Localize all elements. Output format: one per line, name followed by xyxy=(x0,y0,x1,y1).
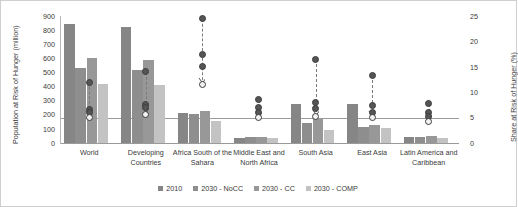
bar xyxy=(369,125,380,143)
legend-swatch-icon xyxy=(254,186,259,191)
y-tick-left: 100 xyxy=(31,125,55,134)
bar xyxy=(98,84,109,143)
data-point-marker xyxy=(86,79,93,86)
bar xyxy=(267,138,278,143)
data-point-marker xyxy=(369,72,376,79)
y-tick-left: 0 xyxy=(31,139,55,148)
x-axis-label: Latin America and Caribbean xyxy=(397,148,460,167)
data-point-marker xyxy=(425,100,432,107)
legend-item[interactable]: 2030 - COMP xyxy=(306,184,358,193)
y-tick-left: 700 xyxy=(31,40,55,49)
y-tick-left: 200 xyxy=(31,110,55,119)
bar xyxy=(256,137,267,143)
bar xyxy=(64,24,75,143)
bar-cluster xyxy=(344,16,401,143)
bar xyxy=(415,137,426,143)
bar xyxy=(358,127,369,143)
chart-legend: 20102030 - NoCC2030 - CC2030 - COMP xyxy=(0,181,516,195)
bar xyxy=(154,85,165,143)
bar xyxy=(211,121,222,143)
bar-cluster xyxy=(287,16,344,143)
bar-cluster xyxy=(231,16,288,143)
y-tick-left: 800 xyxy=(31,26,55,35)
data-point-marker xyxy=(86,114,93,121)
bar xyxy=(245,137,256,143)
legend-swatch-icon xyxy=(158,186,163,191)
legend-label: 2030 - NoCC xyxy=(201,184,243,193)
bar-cluster xyxy=(174,16,231,143)
data-point-marker xyxy=(199,63,206,70)
bar-cluster xyxy=(118,16,175,143)
data-point-marker xyxy=(199,15,206,22)
bar xyxy=(426,136,437,143)
bar xyxy=(234,138,245,143)
bar xyxy=(200,111,211,143)
bar xyxy=(87,58,98,143)
bar xyxy=(75,68,86,143)
legend-item[interactable]: 2030 - CC xyxy=(254,184,295,193)
y-tick-left: 600 xyxy=(31,54,55,63)
legend-label: 2010 xyxy=(166,184,182,193)
legend-swatch-icon xyxy=(306,186,311,191)
bar xyxy=(302,123,313,143)
legend-label: 2030 - COMP xyxy=(314,184,358,193)
y-tick-right: 15 xyxy=(470,63,494,72)
y-axis-right-title: Share at Risk of Hunger (%) xyxy=(509,52,518,142)
data-point-marker xyxy=(255,114,262,121)
y-tick-right: 20 xyxy=(470,37,494,46)
bar xyxy=(381,128,392,143)
y-tick-right: 0 xyxy=(470,139,494,148)
plot-area xyxy=(61,16,457,143)
bar xyxy=(189,114,200,143)
y-tick-left: 500 xyxy=(31,68,55,77)
bar xyxy=(313,119,324,143)
bar xyxy=(178,113,189,143)
bar-cluster xyxy=(61,16,118,143)
y-tick-left: 400 xyxy=(31,82,55,91)
bar xyxy=(121,27,132,143)
bar xyxy=(404,137,415,143)
y-tick-left: 900 xyxy=(31,12,55,21)
legend-swatch-icon xyxy=(193,186,198,191)
legend-item[interactable]: 2010 xyxy=(158,184,182,193)
x-axis-label: World xyxy=(58,148,121,158)
y-axis-left-title: Population at Risk of Hunger (million) xyxy=(11,25,20,144)
y-tick-right: 5 xyxy=(470,113,494,122)
x-axis-line xyxy=(61,143,459,144)
bar xyxy=(347,104,358,143)
legend-item[interactable]: 2030 - NoCC xyxy=(193,184,243,193)
bar-cluster xyxy=(400,16,457,143)
data-point-marker xyxy=(199,51,206,58)
data-point-marker xyxy=(255,96,262,103)
data-point-marker xyxy=(142,111,149,118)
y-tick-right: 25 xyxy=(470,12,494,21)
bar xyxy=(324,130,335,143)
data-point-marker xyxy=(199,81,206,88)
bar xyxy=(437,138,448,143)
x-axis-label: Developing Countries xyxy=(115,148,178,167)
x-axis-label: East Asia xyxy=(341,148,404,158)
data-point-marker xyxy=(369,114,376,121)
y-tick-left: 300 xyxy=(31,96,55,105)
legend-label: 2030 - CC xyxy=(262,184,295,193)
x-axis-label: Africa South of the Sahara xyxy=(171,148,234,167)
data-point-marker xyxy=(312,56,319,63)
x-axis-label: Middle East and North Africa xyxy=(228,148,291,167)
x-axis-label: South Asia xyxy=(284,148,347,158)
bar xyxy=(291,104,302,143)
data-point-marker xyxy=(425,118,432,125)
y-tick-right: 10 xyxy=(470,88,494,97)
